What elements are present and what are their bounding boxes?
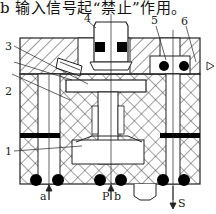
label-1: 1 [5, 145, 12, 158]
port-label-S: S [178, 197, 186, 210]
valve-diagram: 4 5 6 3 2 1 a P b S [0, 0, 216, 214]
label-6: 6 [181, 15, 188, 28]
port-label-a: a [40, 190, 47, 203]
label-3: 3 [5, 40, 12, 53]
label-4: 4 [84, 12, 91, 25]
port-label-b: b [114, 190, 121, 203]
label-2: 2 [5, 85, 12, 98]
port-label-P: P [102, 190, 110, 203]
label-5: 5 [151, 14, 158, 27]
